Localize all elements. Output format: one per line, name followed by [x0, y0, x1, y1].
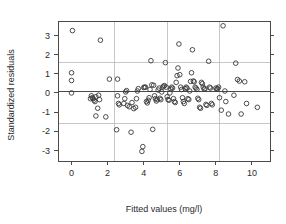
chart-canvas: 0246810 -3-2-10123 Fitted values (mg/l) …: [0, 0, 286, 224]
data-point: [174, 80, 179, 85]
data-point: [97, 97, 102, 102]
data-point: [122, 96, 127, 101]
x-tick-label: 10: [247, 168, 257, 178]
data-point: [206, 59, 211, 64]
x-tick-label: 0: [69, 168, 74, 178]
data-point: [175, 73, 180, 78]
x-tick-label: 2: [105, 168, 110, 178]
data-point: [104, 115, 109, 120]
x-tick-label: 6: [177, 168, 182, 178]
y-tick-label: -3: [42, 146, 50, 156]
data-point: [224, 99, 229, 104]
data-point: [210, 103, 215, 108]
data-point: [232, 93, 237, 98]
y-tick-label: -2: [42, 126, 50, 136]
data-point: [130, 100, 135, 105]
data-point: [98, 38, 103, 43]
data-point: [117, 103, 122, 108]
x-tick-label: 4: [141, 168, 146, 178]
data-point: [177, 42, 182, 47]
data-point: [107, 77, 112, 82]
data-point: [95, 106, 100, 111]
data-point: [69, 78, 74, 83]
y-tick-label: -1: [42, 107, 50, 117]
data-point: [226, 112, 231, 117]
data-point: [134, 96, 139, 101]
data-points: [69, 23, 259, 153]
data-point: [129, 130, 134, 135]
y-tick-label: 3: [45, 31, 50, 41]
x-tick-label: 8: [213, 168, 218, 178]
data-point: [177, 72, 182, 77]
data-point: [221, 23, 226, 28]
data-point: [70, 28, 75, 33]
data-point: [115, 93, 120, 98]
data-point: [176, 66, 181, 71]
data-point: [69, 70, 74, 75]
y-tick-label: 0: [45, 88, 50, 98]
data-point: [239, 112, 244, 117]
y-axis-title: Standardized residuals: [6, 49, 16, 141]
residuals-scatter-plot: 0246810 -3-2-10123 Fitted values (mg/l) …: [0, 0, 286, 224]
x-axis-title: Fitted values (mg/l): [126, 204, 203, 214]
data-point: [233, 61, 238, 66]
data-point: [244, 101, 249, 106]
data-point: [150, 127, 155, 132]
data-point: [242, 79, 247, 84]
y-tick-label: 1: [45, 69, 50, 79]
data-point: [159, 90, 164, 95]
data-point: [189, 70, 194, 75]
data-point: [140, 149, 145, 154]
x-axis: 0246810: [58, 161, 270, 178]
data-point: [94, 114, 99, 119]
data-point: [115, 77, 120, 82]
data-point: [190, 47, 195, 52]
data-point: [196, 97, 201, 102]
y-tick-label: 2: [45, 50, 50, 60]
data-point: [255, 105, 260, 110]
data-point: [141, 144, 146, 149]
